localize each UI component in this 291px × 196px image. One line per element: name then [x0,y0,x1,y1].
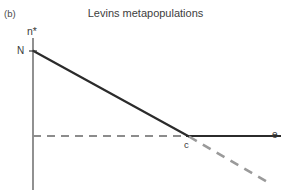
equilibrium-line-solid [34,51,190,137]
figure-panel: (b) Levins metapopulations n* e N c [0,0,291,196]
y-intercept-label: N [17,46,24,56]
x-axis-label: e [272,130,278,140]
plot-area [0,0,291,196]
x-intercept-label: c [184,140,189,150]
equilibrium-line-dashed-extension [189,137,269,184]
y-axis-label: n* [27,26,37,37]
